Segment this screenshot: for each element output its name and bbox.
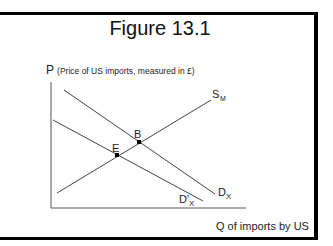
point-b-marker	[137, 140, 141, 144]
svg-text:M: M	[220, 95, 226, 102]
svg-text:X: X	[226, 192, 232, 201]
svg-text:D: D	[218, 186, 226, 198]
demand-curve-dx-shifted	[53, 120, 203, 201]
demand-label: D X	[218, 186, 232, 201]
svg-text:D': D'	[179, 193, 189, 205]
point-b-label: B	[134, 128, 141, 140]
point-e-label: E	[112, 142, 119, 154]
supply-curve-sm	[57, 100, 211, 193]
supply-label: S M	[212, 88, 226, 102]
svg-text:X: X	[189, 199, 195, 208]
svg-text:S: S	[212, 88, 219, 100]
supply-demand-diagram: B E S M D X D' X	[0, 0, 333, 246]
